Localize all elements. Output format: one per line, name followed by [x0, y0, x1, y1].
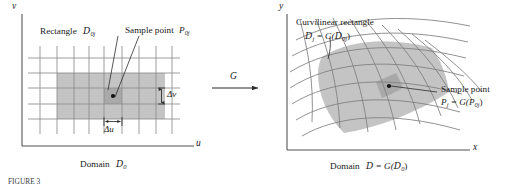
left-delta-u-label: Δu — [104, 125, 114, 134]
right-sample-point-eq-mid: = G( — [448, 97, 469, 107]
right-domain-text: Domain — [330, 161, 360, 171]
right-curvilinear-eq-close: ) — [347, 31, 350, 41]
left-sample-point-label: Sample point P0j — [125, 26, 190, 35]
left-rectangle-subscript: 0j — [90, 30, 95, 37]
right-domain-eq: = G( — [373, 161, 394, 171]
right-domain-label: Domain D = G(D0) — [330, 161, 407, 171]
left-delta-v-label: Δv — [167, 90, 176, 99]
right-domain-rhs-subscript: 0 — [401, 165, 404, 172]
left-domain-label: Domain D0 — [80, 159, 126, 169]
right-curvilinear-rhs-subscript: 0j — [342, 35, 347, 42]
right-curvilinear-label: Curvilinear rectangle — [296, 18, 374, 27]
right-curvilinear-eq-mid: = G( — [314, 31, 335, 41]
right-curvilinear-lhs-subscript: j — [312, 35, 314, 42]
left-domain-subscript: 0 — [123, 163, 126, 170]
left-sample-point-symbol: P — [179, 25, 185, 35]
right-curvilinear-equation: Dj = G(D0j) — [305, 31, 350, 41]
left-sample-point-dot — [111, 94, 115, 98]
right-sample-point-rhs-subscript: 0j — [475, 101, 480, 108]
figure-caption: FIGURE 3 — [8, 178, 40, 184]
left-rectangle-label-text: Rectangle — [40, 26, 77, 36]
right-sample-point-rhs: P — [469, 97, 475, 107]
left-rectangle-label: Rectangle D0j — [40, 26, 95, 36]
right-curvilinear-rhs: D — [335, 30, 342, 41]
right-sample-point-equation: Pj = G(P0j) — [441, 98, 483, 107]
right-sample-point-label: Sample point — [441, 85, 490, 94]
map-arrow-label: G — [230, 72, 237, 82]
figure-change-of-variables: v u Rectangle D0j Sample point P0j Δv Δu… — [0, 0, 506, 184]
right-axis-label-y: y — [279, 2, 283, 12]
left-axis-label-v: v — [12, 2, 16, 12]
right-axis-label-x: x — [473, 143, 477, 153]
left-domain-text: Domain — [80, 159, 110, 169]
left-axis-label-u: u — [196, 139, 201, 149]
right-sample-point-lhs: P — [441, 97, 447, 107]
left-sample-point-text: Sample point — [125, 25, 174, 35]
right-domain-close: ) — [404, 161, 407, 171]
right-sample-point-dot — [387, 84, 391, 88]
left-sample-point-subscript: 0j — [185, 29, 190, 36]
